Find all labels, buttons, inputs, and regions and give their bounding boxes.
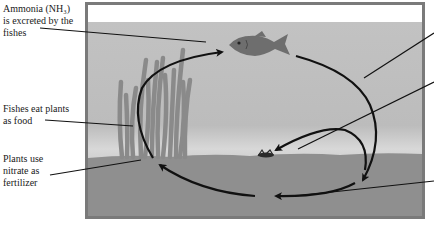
aquarium-tank bbox=[86, 3, 424, 218]
aquarium-diagram bbox=[0, 0, 434, 226]
